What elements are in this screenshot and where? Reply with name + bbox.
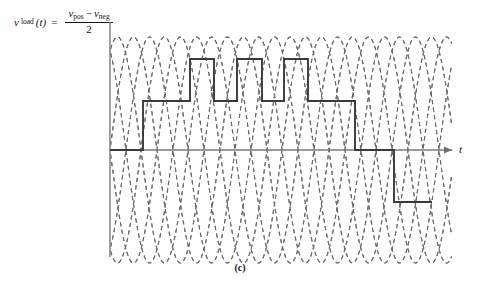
waveform-plot <box>0 0 480 285</box>
x-axis-label: t <box>459 143 462 155</box>
x-axis-arrowhead <box>444 147 452 154</box>
figure-caption: (c) <box>0 262 480 273</box>
